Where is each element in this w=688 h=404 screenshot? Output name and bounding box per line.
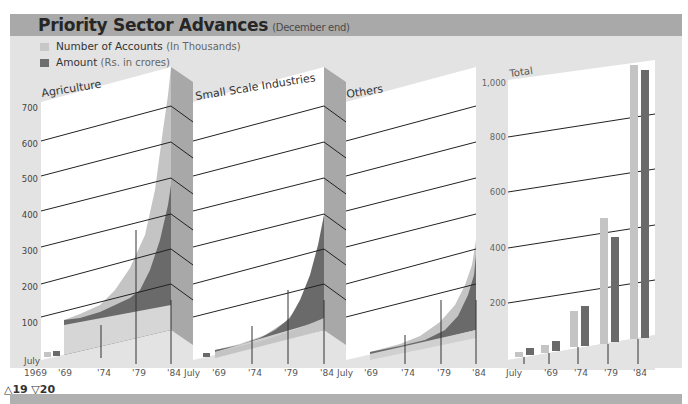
svg-text:500: 500 xyxy=(22,174,38,184)
next-section-bar xyxy=(10,394,682,404)
svg-text:July: July xyxy=(505,368,523,378)
svg-text:600: 600 xyxy=(22,139,38,149)
svg-text:300: 300 xyxy=(22,246,38,256)
svg-text:July: July xyxy=(336,368,354,378)
svg-text:700: 700 xyxy=(22,103,38,113)
svg-text:1969: 1969 xyxy=(24,368,47,378)
svg-text:'84: '84 xyxy=(633,368,647,378)
svg-text:'79: '79 xyxy=(284,368,298,378)
chart-others: Others xyxy=(345,67,476,364)
total-title: Total xyxy=(508,65,534,79)
svg-text:'74: '74 xyxy=(401,368,415,378)
svg-text:'79: '79 xyxy=(437,368,451,378)
svg-text:'84: '84 xyxy=(167,368,181,378)
svg-text:'69: '69 xyxy=(544,368,558,378)
svg-text:'74: '74 xyxy=(574,368,588,378)
svg-text:'69: '69 xyxy=(364,368,378,378)
svg-text:July: July xyxy=(23,356,41,366)
svg-text:100: 100 xyxy=(22,318,38,328)
svg-text:'69: '69 xyxy=(58,368,72,378)
svg-text:400: 400 xyxy=(490,243,506,253)
svg-text:'79: '79 xyxy=(604,368,618,378)
svg-text:'84: '84 xyxy=(472,368,486,378)
svg-text:1,000: 1,000 xyxy=(482,78,506,88)
svg-text:600: 600 xyxy=(490,187,506,197)
chart-agriculture: Agriculture 100 200 300 400 500 600 700 xyxy=(22,67,193,364)
svg-text:'74: '74 xyxy=(97,368,111,378)
svg-text:'69: '69 xyxy=(212,368,226,378)
svg-text:400: 400 xyxy=(22,210,38,220)
svg-text:200: 200 xyxy=(490,298,506,308)
chart-total: Total 200 400 600 800 1,000 xyxy=(482,60,655,370)
svg-text:'84: '84 xyxy=(320,368,334,378)
svg-text:800: 800 xyxy=(490,132,506,142)
svg-text:July: July xyxy=(183,368,201,378)
svg-text:200: 200 xyxy=(22,282,38,292)
svg-text:'74: '74 xyxy=(248,368,262,378)
svg-text:'79: '79 xyxy=(132,368,146,378)
chart-small-scale-industries: Small Scale Industries xyxy=(193,67,346,364)
